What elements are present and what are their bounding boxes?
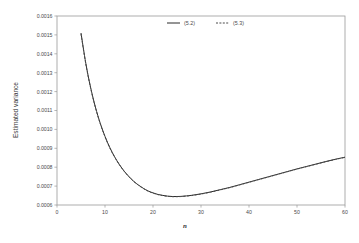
legend-label-53: (5.3) [233, 20, 244, 26]
y-tick-label: 0.0008 [37, 164, 53, 170]
x-tick-label: 20 [150, 209, 156, 215]
x-tick-label: 50 [294, 209, 300, 215]
y-tick-label: 0.0016 [37, 13, 53, 19]
y-tick-label: 0.0009 [37, 145, 53, 151]
data-series-group [81, 33, 345, 197]
y-tick-label: 0.0015 [37, 32, 53, 38]
x-tick-label: 10 [102, 209, 108, 215]
x-axis: 0102030405060 [56, 205, 348, 215]
chart-figure: 0.00060.00070.00080.00090.00100.00110.00… [0, 0, 359, 243]
x-tick-label: 0 [56, 209, 59, 215]
series-path-53 [81, 34, 345, 197]
y-tick-label: 0.0010 [37, 126, 53, 132]
legend-label-52: (5.2) [184, 20, 195, 26]
y-tick-label: 0.0012 [37, 89, 53, 95]
y-tick-label: 0.0011 [37, 107, 53, 113]
estimated-variance-line-chart: 0.00060.00070.00080.00090.00100.00110.00… [0, 0, 359, 243]
chart-legend: (5.2)(5.3) [167, 20, 244, 26]
y-axis-title: Estimated variance [12, 82, 19, 138]
y-tick-label: 0.0007 [37, 183, 53, 189]
series-path-52 [81, 33, 345, 197]
plot-frame [57, 16, 345, 205]
x-tick-label: 40 [246, 209, 252, 215]
x-tick-label: 60 [342, 209, 348, 215]
y-tick-label: 0.0006 [37, 202, 53, 208]
y-axis: 0.00060.00070.00080.00090.00100.00110.00… [37, 13, 57, 208]
x-axis-title: n [183, 222, 187, 230]
y-tick-label: 0.0014 [37, 51, 53, 57]
x-tick-label: 30 [198, 209, 204, 215]
y-tick-label: 0.0013 [37, 70, 53, 76]
